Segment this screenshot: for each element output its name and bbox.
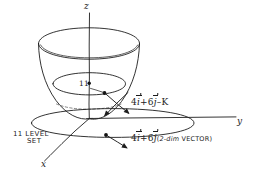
level-set-caption-line-2: SET xyxy=(13,138,49,145)
vector-2d-note-dim: 2-dim xyxy=(159,135,179,143)
vector-2d-note: (2-dim VECTOR) xyxy=(157,135,212,143)
vector-2d-label: 4i+6j(2-dim VECTOR) xyxy=(131,134,212,143)
x-axis-line xyxy=(45,119,90,162)
vector-2d-plus: + xyxy=(140,133,148,143)
vector-3d-plus: + xyxy=(140,97,148,107)
vector-3d-symbol-i: i xyxy=(137,98,140,107)
vector-2d-symbol-j: j xyxy=(154,134,157,143)
vector-3d-symbol-k: K xyxy=(161,97,168,107)
vector-3d-symbol-j: j xyxy=(154,98,157,107)
vector-2d-symbol-i: i xyxy=(137,134,140,143)
sketch-canvas: z y x 11 11 LEVEL SET 4i+6j–K 4i+6j(2-di… xyxy=(0,0,253,176)
axis-label-y: y xyxy=(237,117,242,126)
level-set-pointer-line xyxy=(91,88,105,92)
axis-label-z: z xyxy=(84,2,89,11)
paraboloid-wall-right xyxy=(89,44,139,120)
level-set-value-label: 11 xyxy=(79,80,89,88)
vector-3d-label: 4i+6j–K xyxy=(131,98,168,107)
y-axis-line xyxy=(89,117,236,119)
vector-2d-note-word: VECTOR xyxy=(182,135,210,143)
axis-label-x: x xyxy=(41,160,46,169)
vector-2d-note-close: ) xyxy=(209,135,212,143)
level-set-caption: 11 LEVEL SET xyxy=(13,131,49,146)
z-axis-line xyxy=(89,13,90,119)
diagram-drawing xyxy=(0,0,253,176)
